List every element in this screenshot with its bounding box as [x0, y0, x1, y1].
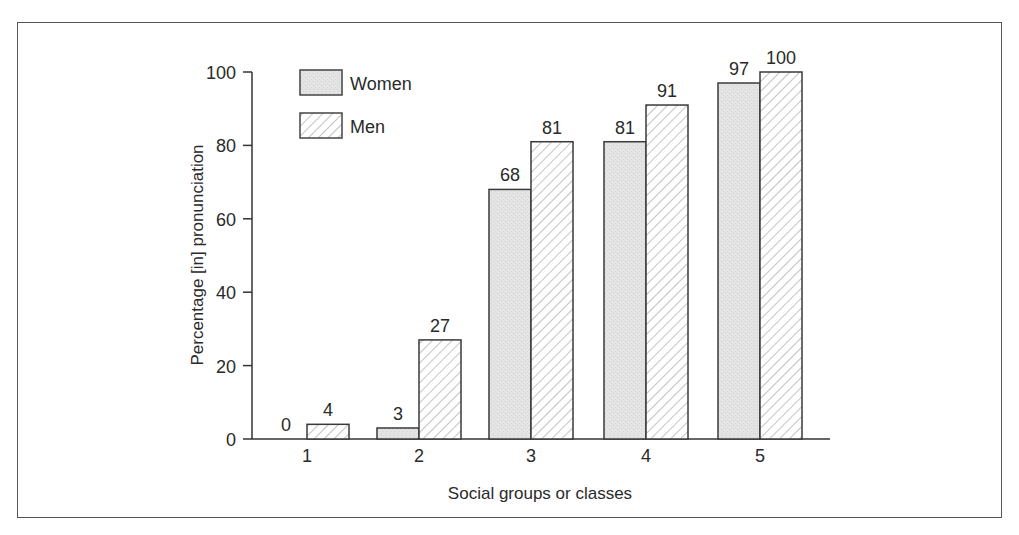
data-label: 0 [281, 415, 291, 435]
bar-men-2 [419, 340, 461, 439]
x-axis: 12345 Social groups or classes [252, 439, 830, 503]
y-tick-label: 40 [216, 283, 236, 303]
bar-women-5 [718, 83, 760, 439]
data-label: 81 [615, 118, 635, 138]
legend-label-women: Women [350, 74, 412, 94]
bar-men-3 [531, 142, 573, 439]
y-tick-label: 0 [226, 430, 236, 450]
bar-men-1 [307, 424, 349, 439]
bar-women-4 [604, 142, 646, 439]
data-label: 97 [729, 59, 749, 79]
bars: 043276881819197100 [281, 48, 802, 439]
legend: Women Men [300, 70, 412, 138]
legend-swatch-women [300, 70, 342, 95]
x-tick-label: 1 [302, 446, 312, 466]
data-label: 81 [542, 118, 562, 138]
bar-men-4 [646, 105, 688, 439]
data-label: 68 [500, 165, 520, 185]
y-tick-label: 100 [206, 63, 236, 83]
y-tick-label: 20 [216, 357, 236, 377]
data-label: 27 [430, 316, 450, 336]
x-tick-label: 4 [641, 446, 651, 466]
x-axis-title: Social groups or classes [448, 484, 632, 503]
y-axis-title: Percentage [in] pronunciation [188, 144, 207, 365]
y-tick-label: 80 [216, 136, 236, 156]
legend-label-men: Men [350, 117, 385, 137]
x-tick-label: 5 [755, 446, 765, 466]
bar-chart: 020406080100 Percentage [in] pronunciati… [0, 0, 1019, 535]
data-label: 100 [766, 48, 796, 68]
y-axis: 020406080100 Percentage [in] pronunciati… [188, 63, 252, 450]
data-label: 3 [393, 404, 403, 424]
x-tick-label: 2 [414, 446, 424, 466]
y-tick-label: 60 [216, 210, 236, 230]
legend-swatch-men [300, 113, 342, 138]
bar-men-5 [760, 72, 802, 439]
bar-women-3 [489, 189, 531, 439]
data-label: 91 [657, 81, 677, 101]
data-label: 4 [323, 400, 333, 420]
x-tick-label: 3 [526, 446, 536, 466]
bar-women-2 [377, 428, 419, 439]
